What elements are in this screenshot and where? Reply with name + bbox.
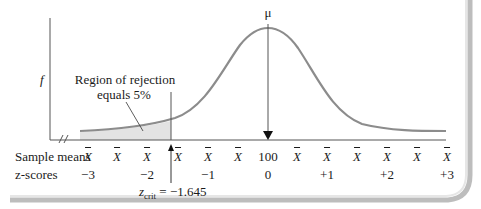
z-scores-row-label: z-scores (15, 168, 58, 181)
sample-mean-xbar: X (413, 150, 421, 163)
sample-means-row-label: Sample means (15, 150, 90, 163)
z-score-value: 0 (265, 168, 272, 181)
z-score-value: +3 (440, 168, 454, 181)
critical-value-text: = −1.645 (156, 184, 206, 199)
z-score-value: −1 (201, 168, 215, 181)
sample-mean-xbar: X (234, 150, 242, 163)
critical-subscript: crit (144, 191, 156, 201)
sample-mean-xbar: X (383, 150, 391, 163)
region-label-line1: Region of rejection (75, 73, 175, 86)
diagram-graphics (0, 0, 481, 209)
card-shadow (10, 0, 470, 200)
sample-mean-xbar: X (84, 150, 92, 163)
sample-mean-xbar: X (293, 150, 301, 163)
axis-break-icon (59, 135, 68, 143)
z-score-value: +1 (320, 168, 334, 181)
z-score-value: +2 (380, 168, 394, 181)
critical-value-label: zcrit = −1.645 (139, 185, 206, 201)
sample-mean-xbar: X (143, 150, 151, 163)
normal-distribution-diagram: f μ Region of rejection equals 5% Sample… (0, 0, 481, 209)
sample-mean-xbar: X (204, 150, 212, 163)
sample-mean-xbar: X (174, 150, 182, 163)
sample-mean-xbar: X (443, 150, 451, 163)
sample-mean-value: 100 (258, 150, 278, 163)
sample-mean-xbar: X (353, 150, 361, 163)
sample-mean-xbar: X (113, 150, 121, 163)
region-label-line2: equals 5% (97, 88, 151, 101)
y-axis-label: f (40, 73, 44, 86)
z-score-value: −2 (140, 168, 154, 181)
z-score-value: −3 (81, 168, 95, 181)
mean-arrow-icon (263, 131, 273, 140)
mu-label: μ (265, 6, 272, 19)
card-edge (10, 0, 466, 196)
sample-mean-xbar: X (323, 150, 331, 163)
